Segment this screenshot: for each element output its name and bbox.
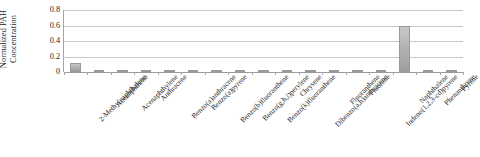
- x-tick-mark: [463, 72, 464, 75]
- bar: [235, 70, 246, 72]
- bar: [446, 70, 457, 72]
- bar: [94, 70, 105, 72]
- bars-series: [64, 10, 463, 72]
- y-tick-label: 0: [36, 68, 60, 76]
- y-tick-label: 0.6: [36, 22, 60, 30]
- plot-area: [63, 10, 463, 72]
- bar: [211, 70, 222, 72]
- bar: [423, 70, 434, 72]
- bar: [117, 70, 128, 72]
- y-axis-tick-labels: 00.20.40.60.8: [36, 4, 60, 76]
- bar: [352, 70, 363, 72]
- y-tick-label: 0.2: [36, 53, 60, 61]
- x-axis-category-labels: 2-MethylnaphthaleneAcenaphtheneAcenaphth…: [63, 73, 462, 157]
- x-category-label: Pyrene: [460, 73, 480, 93]
- bar: [70, 63, 81, 72]
- y-tick-label: 0.4: [36, 37, 60, 45]
- bar: [399, 26, 410, 73]
- bar: [305, 70, 316, 72]
- y-tick-label: 0.8: [36, 6, 60, 14]
- bar: [188, 70, 199, 72]
- bar: [258, 70, 269, 72]
